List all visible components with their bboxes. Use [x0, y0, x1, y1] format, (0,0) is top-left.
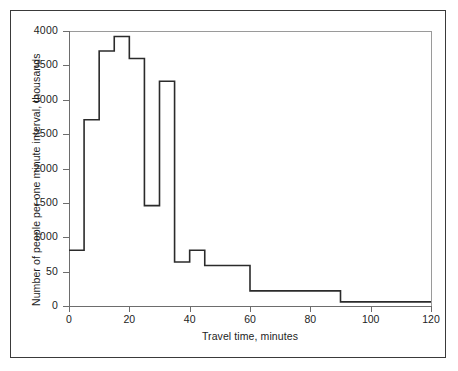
chart-page: 0501000150020002500300035004000 02040608…	[0, 0, 458, 371]
figure-caption	[12, 361, 162, 370]
step-histogram-curve	[0, 0, 458, 371]
